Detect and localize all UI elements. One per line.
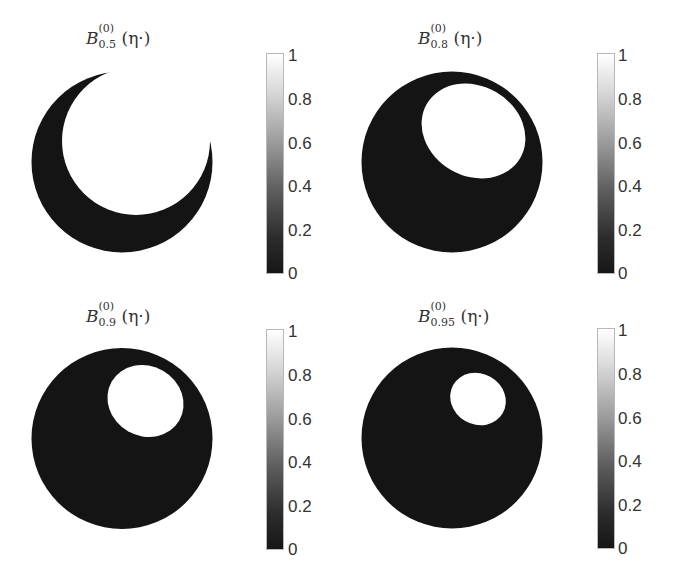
panel-1-image [32,60,231,253]
colorbar-tick-label: 0.4 [618,178,642,195]
title-base: B [418,28,431,48]
colorbar-tick-label: 0 [618,265,627,282]
colorbar-tick-label: 0.8 [288,367,312,384]
colorbar-tick-label: 0.4 [288,178,312,195]
title-base: B [86,306,99,326]
title-subscript: 0.9 [99,316,117,329]
panel-3-title: B(0)0.9 (η·) [86,306,150,326]
title-subscript: 0.8 [431,38,449,51]
colorbar-tick-label: 1 [288,323,297,340]
panel-1-colorbar [266,53,284,274]
panel-4-image [362,348,543,529]
colorbar-tick-label: 0.2 [618,497,642,514]
disk-zero-region [362,348,543,529]
colorbar-tick-label: 1 [618,322,627,339]
colorbar-tick-label: 0 [288,541,297,558]
title-argument: (η·) [122,28,151,48]
title-subscript: 0.5 [99,38,117,51]
panel-1-title: B(0)0.5 (η·) [86,28,150,48]
colorbar-tick-label: 0.4 [618,453,642,470]
panel-2-colorbar [597,53,615,274]
panel-4-colorbar [597,328,615,549]
colorbar-tick-label: 0.6 [618,410,642,427]
title-argument: (η·) [461,306,490,326]
panel-4-title: B(0)0.95 (η·) [418,306,489,326]
panel-3-image [32,348,213,529]
title-argument: (η·) [122,306,151,326]
colorbar-tick-label: 0.2 [618,222,642,239]
title-argument: (η·) [454,28,483,48]
title-subscript: 0.95 [431,316,456,329]
title-superscript: (0) [99,22,115,35]
colorbar-tick-label: 0.4 [288,454,312,471]
title-base: B [418,306,431,326]
colorbar-tick-label: 0 [618,540,627,557]
colorbar-tick-label: 0.2 [288,498,312,515]
colorbar-tick-label: 0.2 [288,222,312,239]
colorbar-tick-label: 0.8 [618,91,642,108]
title-superscript: (0) [99,300,115,313]
title-base: B [86,28,99,48]
colorbar-tick-label: 1 [288,47,297,64]
colorbar-tick-label: 0.6 [288,135,312,152]
colorbar-tick-label: 0.8 [288,91,312,108]
panel-2-title: B(0)0.8 (η·) [418,28,482,48]
panel-2-image [362,65,543,252]
title-superscript: (0) [431,22,447,35]
colorbar-tick-label: 0.6 [618,135,642,152]
colorbar-tick-label: 0.6 [288,411,312,428]
colorbar-tick-label: 0.8 [618,366,642,383]
colorbar-tick-label: 1 [618,47,627,64]
colorbar-tick-label: 0 [288,265,297,282]
panel-3-colorbar [266,329,284,550]
plots-canvas [0,0,675,584]
title-superscript: (0) [431,300,447,313]
